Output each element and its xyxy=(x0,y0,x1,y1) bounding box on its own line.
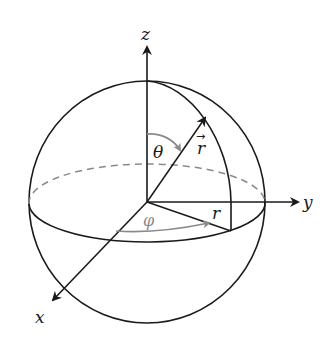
x-axis-label: x xyxy=(35,307,45,327)
phi-label: φ xyxy=(143,211,155,230)
spherical-coordinates-diagram: z y x θ φ r → r xyxy=(0,0,332,342)
theta-arc xyxy=(147,134,180,150)
r-projection-label: r xyxy=(212,203,221,223)
x-axis xyxy=(53,202,147,300)
y-axis-label: y xyxy=(302,192,313,212)
r-vector-arrow-label: → xyxy=(196,130,205,143)
theta-label: θ xyxy=(153,142,163,162)
phi-arc xyxy=(116,223,209,232)
z-axis-label: z xyxy=(140,24,151,44)
